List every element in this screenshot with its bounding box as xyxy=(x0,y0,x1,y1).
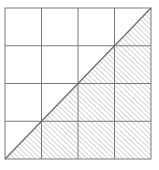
grid-diagram xyxy=(0,0,159,170)
